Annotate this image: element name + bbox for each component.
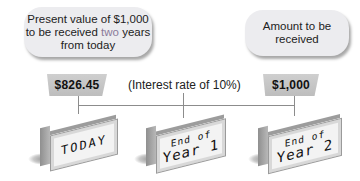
callout-line-2-pre: to be received [26,26,101,38]
sign-today: TODAY [30,115,120,175]
sign-side [258,126,268,166]
timeline-horizontal-line [78,105,294,106]
timeline-tick-today [78,96,79,114]
callout-line-2-post: years [119,26,150,38]
amount-line-1: Amount to be [263,20,331,33]
callout-accent-two: two [101,26,119,38]
future-value-tag: $1,000 [263,74,319,96]
callout-line-3: from today [26,39,151,52]
present-value-tag: $826.45 [47,74,107,96]
sign-face-year-2: End of Year 2 [268,118,342,174]
callout-line-2: to be received two years [26,26,151,39]
sign-year-1: End of Year 1 [138,113,228,175]
present-value-callout: Present value of $1,000 to be received t… [24,7,152,57]
interest-rate-note: (Interest rate of 10%) [128,78,241,92]
sign-face-today: TODAY [50,119,118,172]
amount-line-2: received [263,33,331,46]
sign-face-year-1: End of Year 1 [156,118,226,173]
sign-label-today: TODAY [61,132,107,158]
callout-line-1: Present value of $1,000 [26,13,151,26]
sign-side [146,126,156,166]
sign-year-2: End of Year 2 [250,113,350,175]
sign-side [40,126,50,166]
amount-received-callout: Amount to be received [245,10,349,56]
